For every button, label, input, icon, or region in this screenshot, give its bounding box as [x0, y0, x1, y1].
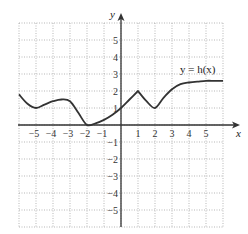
- x-tick-label: 1: [136, 128, 141, 139]
- y-tick-label: −4: [107, 188, 118, 199]
- x-tick-label: −1: [97, 128, 108, 139]
- x-tick-label: −2: [80, 128, 91, 139]
- x-tick-label: −3: [63, 128, 74, 139]
- y-tick-label: −3: [107, 171, 118, 182]
- x-tick-label: 5: [204, 128, 209, 139]
- x-tick-label: 3: [170, 128, 175, 139]
- axes: [18, 13, 240, 227]
- y-tick-label: 5: [113, 35, 118, 46]
- x-tick-labels: −5−4−3−2−112345: [29, 128, 209, 139]
- y-tick-label: −2: [107, 154, 118, 165]
- y-tick-label: 3: [113, 69, 118, 80]
- x-tick-label: −5: [29, 128, 40, 139]
- y-axis-label: y: [109, 8, 115, 20]
- y-tick-label: 2: [113, 86, 118, 97]
- graph: x y −5−4−3−2−112345 54321−1−2−3−4−5 y = …: [0, 0, 248, 234]
- x-tick-label: 2: [153, 128, 158, 139]
- y-tick-label: −5: [107, 205, 118, 216]
- x-axis-label: x: [235, 127, 241, 139]
- x-tick-label: −4: [46, 128, 57, 139]
- y-tick-label: 4: [113, 52, 118, 63]
- curve-label: y = h(x): [180, 63, 216, 76]
- y-tick-label: −1: [107, 137, 118, 148]
- x-tick-label: 4: [187, 128, 192, 139]
